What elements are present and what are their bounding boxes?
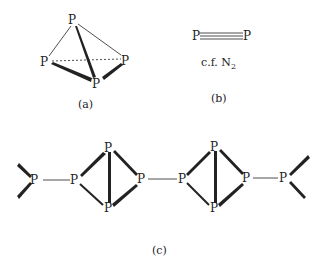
atom-p-8: P: [210, 201, 218, 215]
atom-p-6: P: [178, 172, 186, 186]
atom-p-right: P: [121, 54, 129, 68]
atom-p-top: P: [68, 13, 76, 27]
panel-a-label: (a): [78, 98, 93, 111]
n2-comparison-note: c.f. N2: [201, 56, 236, 71]
panel-c-label: (c): [152, 244, 167, 257]
panel-a-tetrahedron: P P P P (a): [40, 13, 129, 111]
panel-b-p2: P P c.f. N2 (b): [192, 29, 251, 105]
phosphorus-structures-diagram: P P P P (a) P P c.f. N2 (b): [0, 0, 332, 271]
atom-p-1: P: [30, 173, 38, 187]
atom-p-2: P: [70, 173, 78, 187]
atom-p-5: P: [137, 172, 145, 186]
atom-p-3: P: [104, 141, 112, 155]
atom-p-7: P: [210, 140, 218, 154]
panel-b-label: (b): [211, 92, 227, 105]
atom-p-9: P: [242, 171, 250, 185]
atom-p-left: P: [192, 29, 200, 43]
atom-p-right: P: [243, 29, 251, 43]
atom-p-4: P: [104, 201, 112, 215]
panel-c-chain: P P P P P P P P P P (c): [17, 140, 310, 257]
atom-p-left: P: [40, 55, 48, 69]
atom-p-bottom: P: [92, 77, 100, 91]
atom-p-10: P: [279, 171, 287, 185]
